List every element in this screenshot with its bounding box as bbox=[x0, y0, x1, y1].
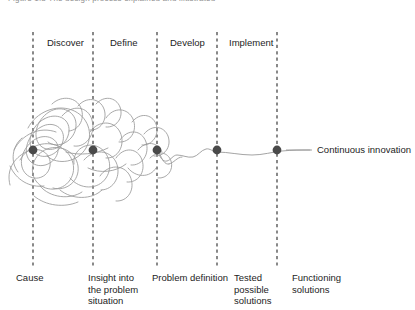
milestone-dot-insight bbox=[89, 146, 98, 155]
phase-label-define: Define bbox=[110, 37, 137, 48]
milestone-label-cause: Cause bbox=[16, 272, 43, 284]
design-squiggle-figure: Figure 1.3 The design process explained … bbox=[0, 0, 415, 310]
milestone-label-insight: Insight into the problem situation bbox=[88, 272, 138, 307]
milestone-dot-cause bbox=[29, 146, 38, 155]
milestone-dot-problem-definition bbox=[153, 146, 162, 155]
milestone-dot-tested-solutions bbox=[213, 146, 222, 155]
settling-line-path bbox=[157, 149, 310, 164]
continuous-innovation-label: Continuous innovation bbox=[317, 144, 411, 155]
milestone-label-tested-solutions: Tested possible solutions bbox=[234, 272, 272, 307]
phase-label-discover: Discover bbox=[47, 37, 84, 48]
phase-label-implement: Implement bbox=[229, 37, 273, 48]
milestone-dot-functioning-solutions bbox=[273, 146, 282, 155]
phase-label-develop: Develop bbox=[170, 37, 205, 48]
milestone-label-functioning-solutions: Functioning solutions bbox=[292, 272, 341, 295]
milestone-label-problem-definition: Problem definition bbox=[152, 272, 228, 284]
